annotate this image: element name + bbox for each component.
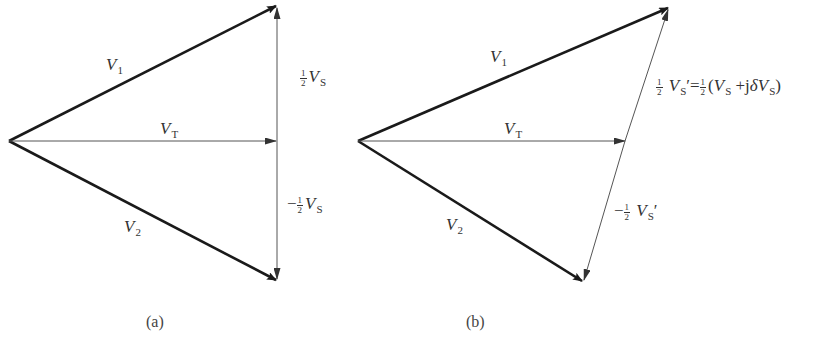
label-symbol: V	[446, 215, 456, 234]
equals-sign: =	[690, 76, 700, 95]
fraction-half: 12	[624, 203, 631, 222]
label-v2-b: V2	[446, 216, 463, 236]
frac-denominator: 2	[624, 213, 631, 222]
label-subscript: S	[320, 76, 326, 88]
fraction-half: 12	[297, 196, 304, 215]
minus-sign: −	[287, 194, 297, 213]
label-symbol: V	[106, 55, 116, 74]
caption-a: (a)	[146, 313, 164, 331]
label-half-vs-a: 12VS	[300, 68, 326, 88]
frac-denominator: 2	[297, 206, 304, 215]
prime-mark: ′	[654, 201, 658, 220]
minus-sign: −	[614, 201, 624, 220]
label-subscript: T	[515, 128, 522, 140]
label-symbol: V	[758, 76, 768, 95]
label-subscript: 1	[501, 56, 507, 68]
vector-v2-a	[9, 141, 276, 280]
frac-denominator: 2	[656, 88, 663, 97]
label-symbol: V	[305, 194, 315, 213]
fraction-half: 12	[656, 78, 663, 97]
label-v1-a: V1	[106, 56, 123, 76]
label-symbol: V	[309, 67, 319, 86]
fraction-half: 12	[300, 69, 307, 88]
label-symbol: V	[124, 217, 134, 236]
frac-denominator: 2	[300, 79, 307, 88]
label-subscript: T	[171, 128, 178, 140]
fraction-half-rhs: 12	[700, 78, 707, 97]
label-symbol: V	[504, 119, 514, 138]
vector-v1-a	[9, 6, 276, 141]
label-subscript: 1	[117, 64, 123, 76]
label-subscript: 2	[457, 224, 463, 236]
caption-b: (b)	[466, 313, 485, 331]
label-symbol: V	[714, 76, 724, 95]
figure-b	[358, 8, 668, 281]
label-subscript: S	[316, 203, 322, 215]
label-symbol: V	[160, 119, 170, 138]
vector-half-vs-prime-b	[625, 10, 668, 141]
delta-symbol: δ	[750, 76, 758, 95]
vector-v2-b	[358, 141, 582, 281]
frac-denominator: 2	[700, 88, 707, 97]
label-vt-a: VT	[160, 120, 178, 140]
paren-close: )	[775, 76, 781, 95]
label-symbol: V	[636, 201, 646, 220]
label-half-vs-prime-b: 12 VS′=12(VS +jδVS)	[656, 77, 781, 97]
label-symbol: V	[669, 76, 679, 95]
figure-a	[9, 6, 277, 280]
label-symbol: V	[490, 47, 500, 66]
label-v2-a: V2	[124, 218, 141, 238]
label-v1-b: V1	[490, 48, 507, 68]
label-vt-b: VT	[504, 120, 522, 140]
label-subscript: 2	[135, 226, 141, 238]
label-neg-half-vs-prime-b: −12 VS′	[614, 202, 658, 222]
phasor-diagram-canvas	[0, 0, 821, 341]
plus-j: +j	[731, 76, 750, 95]
label-neg-half-vs-a: −12VS	[287, 195, 323, 215]
